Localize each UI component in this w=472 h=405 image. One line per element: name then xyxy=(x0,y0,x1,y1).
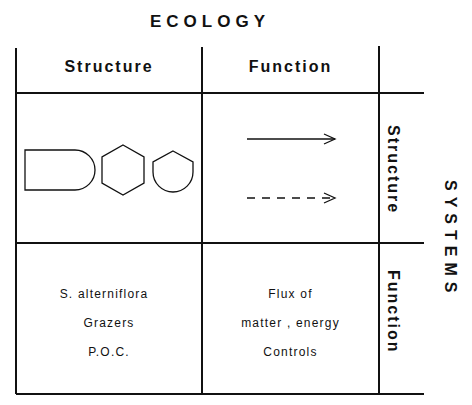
side-title: SYSTEMS xyxy=(441,180,459,298)
cell-line: Controls xyxy=(202,338,379,367)
cell-line: P.O.C. xyxy=(16,338,202,367)
cell-line: Grazers xyxy=(16,309,202,338)
cell-line: Flux of xyxy=(202,280,379,309)
hexagon-shape xyxy=(102,145,144,195)
pentagon-round-bottom-shape xyxy=(153,151,193,192)
column-header-function: Function xyxy=(202,58,379,76)
rounded-rectangle-shape xyxy=(25,150,95,190)
row-header-structure: Structure xyxy=(384,100,402,240)
cell-line: matter , energy xyxy=(202,309,379,338)
cell-function-structure: S. alterniflora Grazers P.O.C. xyxy=(16,280,202,367)
cell-function-function: Flux of matter , energy Controls xyxy=(202,280,379,367)
column-header-structure: Structure xyxy=(16,58,202,76)
cell-line: S. alterniflora xyxy=(11,280,197,309)
row-header-function: Function xyxy=(384,270,402,390)
